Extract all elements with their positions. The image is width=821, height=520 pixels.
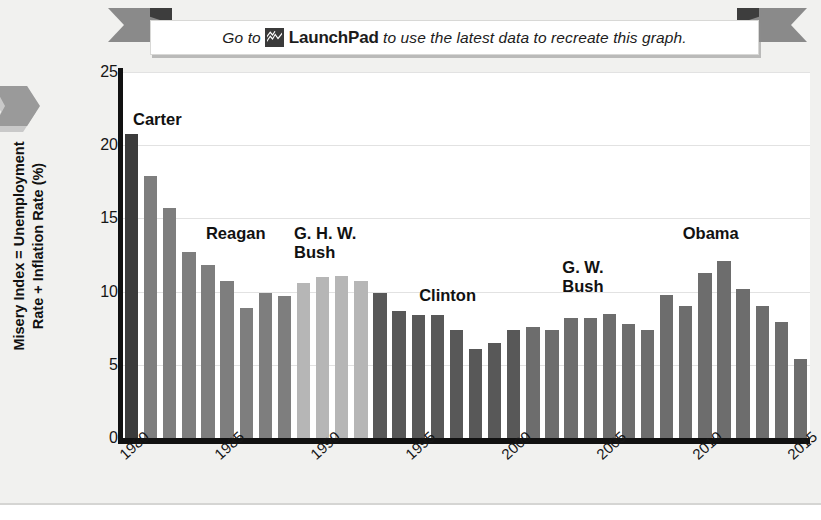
bar-2014[interactable] — [775, 322, 788, 438]
bar-1994[interactable] — [392, 311, 405, 438]
bar-series — [122, 72, 810, 438]
bar-2012[interactable] — [736, 289, 749, 438]
annotation-obama: Obama — [683, 224, 739, 243]
y-axis-tick-20: 20 — [84, 136, 118, 154]
plot-area: CarterReaganG. H. W. BushClintonG. W. Bu… — [122, 72, 810, 438]
annotation-reagan: Reagan — [206, 224, 266, 243]
page-bottom-edge — [0, 505, 821, 520]
bar-2002[interactable] — [545, 330, 558, 438]
bar-2008[interactable] — [660, 295, 673, 438]
bar-1993[interactable] — [373, 293, 386, 438]
y-axis-tick-15: 15 — [84, 209, 118, 227]
bar-2010[interactable] — [698, 273, 711, 438]
bar-2011[interactable] — [717, 261, 730, 438]
bar-2013[interactable] — [756, 306, 769, 438]
annotation-g-h-w-bush: G. H. W. Bush — [294, 224, 356, 262]
annotation-clinton: Clinton — [419, 286, 476, 305]
bar-1982[interactable] — [163, 208, 176, 438]
bar-2005[interactable] — [603, 314, 616, 438]
y-axis-tick-25: 25 — [84, 63, 118, 81]
bar-2004[interactable] — [584, 318, 597, 438]
bar-2003[interactable] — [564, 318, 577, 438]
bar-2001[interactable] — [526, 327, 539, 438]
bar-1988[interactable] — [278, 296, 291, 438]
bar-2000[interactable] — [507, 330, 520, 438]
bar-1980[interactable] — [125, 134, 138, 439]
bar-1992[interactable] — [354, 281, 367, 438]
bar-1991[interactable] — [335, 276, 348, 439]
y-axis-title-line2: Rate + Inflation Rate (%) — [29, 96, 48, 396]
y-axis-title: Misery Index = Unemployment Rate + Infla… — [10, 0, 52, 96]
bar-2007[interactable] — [641, 330, 654, 438]
bar-2006[interactable] — [622, 324, 635, 438]
y-axis-ticks: 2520151050 — [84, 68, 118, 442]
bar-2009[interactable] — [679, 306, 692, 438]
y-axis-title-line1: Misery Index = Unemployment — [10, 96, 29, 396]
misery-index-chart: Misery Index = Unemployment Rate + Infla… — [0, 0, 821, 520]
bar-1986[interactable] — [240, 308, 253, 438]
bar-1998[interactable] — [469, 349, 482, 438]
bar-1981[interactable] — [144, 176, 157, 438]
bar-1990[interactable] — [316, 277, 329, 438]
bar-2015[interactable] — [794, 359, 807, 438]
bar-1996[interactable] — [431, 315, 444, 438]
bar-1983[interactable] — [182, 252, 195, 438]
y-axis-tick-0: 0 — [84, 429, 118, 447]
y-axis-tick-5: 5 — [84, 356, 118, 374]
annotation-g-w-bush: G. W. Bush — [562, 258, 603, 296]
bar-1989[interactable] — [297, 283, 310, 438]
bar-1999[interactable] — [488, 343, 501, 438]
y-axis-tick-10: 10 — [84, 283, 118, 301]
bar-1987[interactable] — [259, 293, 272, 438]
y-axis-line — [118, 68, 123, 442]
bar-1985[interactable] — [220, 281, 233, 438]
bar-1984[interactable] — [201, 265, 214, 438]
bar-1995[interactable] — [412, 315, 425, 438]
annotation-carter: Carter — [133, 110, 182, 129]
bar-1997[interactable] — [450, 330, 463, 438]
